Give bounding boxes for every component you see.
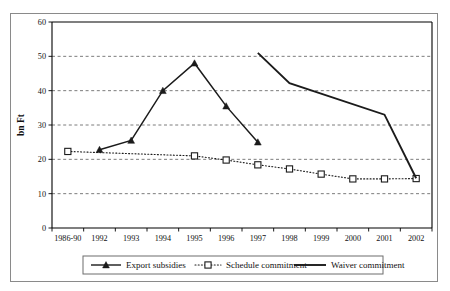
y-axis: 0102030405060: [38, 18, 52, 233]
data-point-marker: [286, 166, 292, 172]
data-point-marker: [65, 148, 71, 154]
x-tick-label: 1999: [313, 234, 329, 243]
x-tick-label: 1996: [218, 234, 234, 243]
legend-square-marker: [205, 262, 211, 268]
x-tick-label: 1992: [91, 234, 107, 243]
y-tick-label: 0: [42, 224, 46, 233]
series-group: [65, 53, 420, 182]
x-tick-label: 2000: [345, 234, 361, 243]
y-tick-label: 60: [38, 18, 46, 27]
y-tick-label: 30: [38, 121, 46, 130]
chart-legend: Export subsidiesSchedule commitmentWaive…: [83, 256, 405, 274]
y-tick-label: 50: [38, 52, 46, 61]
x-tick-label: 2001: [376, 234, 392, 243]
data-point-marker: [255, 162, 261, 168]
x-tick-label: 1993: [123, 234, 139, 243]
data-point-marker: [223, 157, 229, 163]
data-point-marker: [191, 60, 198, 66]
series-line-schedule-commitment: [68, 151, 416, 178]
series-line-export-subsidies: [100, 63, 258, 150]
y-axis-title: bn Ft: [16, 113, 26, 136]
x-tick-label: 2002: [408, 234, 424, 243]
data-point-marker: [381, 176, 387, 182]
data-point-marker: [318, 171, 324, 177]
series-line-waiver-commitment: [258, 53, 416, 178]
y-tick-label: 20: [38, 155, 46, 164]
data-point-marker: [350, 176, 356, 182]
x-tick-label: 1997: [250, 234, 266, 243]
y-tick-label: 10: [38, 190, 46, 199]
chart-figure: 0102030405060 1986-901992199319941995199…: [0, 0, 450, 291]
line-chart: 0102030405060 1986-901992199319941995199…: [0, 0, 450, 291]
y-tick-label: 40: [38, 87, 46, 96]
x-tick-label: 1998: [281, 234, 297, 243]
x-tick-label: 1986-90: [54, 234, 81, 243]
legend-label: Waiver commitment: [331, 260, 405, 270]
x-tick-label: 1995: [186, 234, 202, 243]
data-point-marker: [191, 153, 197, 159]
x-tick-label: 1994: [155, 234, 171, 243]
x-axis: 1986-90199219931994199519961997199819992…: [52, 228, 432, 243]
legend-label: Export subsidies: [126, 260, 186, 270]
